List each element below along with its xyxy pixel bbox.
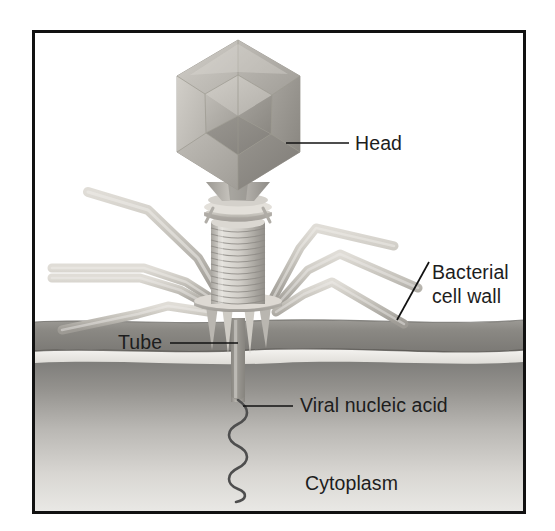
bacteriophage-figure: Head Bacterial cell wall Tube Viral nucl… [0, 0, 555, 531]
label-viral-nucleic-acid: Viral nucleic acid [300, 394, 448, 416]
cytoplasm-region [35, 361, 523, 511]
label-bacterial-cell-wall-line1: Bacterial [432, 261, 509, 283]
label-cytoplasm: Cytoplasm [305, 472, 398, 494]
tail-tube [231, 318, 245, 402]
label-head: Head [355, 132, 402, 154]
label-bacterial-cell-wall-line2: cell wall [432, 285, 501, 307]
bacteriophage-diagram-canvas: Head Bacterial cell wall Tube Viral nucl… [0, 0, 555, 531]
contractile-sheath [211, 216, 265, 305]
label-tube: Tube [118, 331, 162, 353]
